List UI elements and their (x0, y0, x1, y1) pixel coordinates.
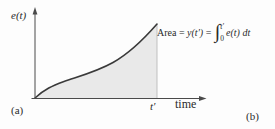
x-axis-arrow (199, 96, 207, 101)
integrator-area-figure: e(t) t′ time (a) (b) Area = y(t′) = ∫ t′… (0, 0, 275, 129)
panel-label-b: (b) (246, 111, 259, 122)
panel-label-a: (a) (11, 105, 23, 116)
x-axis-label: time (175, 98, 196, 110)
integral-limits: t′ 0 (220, 22, 224, 43)
shaded-area (35, 24, 157, 98)
integral-upper-limit: t′ (220, 22, 224, 31)
graph-canvas (0, 0, 275, 129)
formula-prefix: Area = (157, 27, 187, 38)
formula-y-term: y(t′) (187, 27, 203, 38)
t-prime-label: t′ (150, 101, 155, 112)
area-formula: Area = y(t′) = ∫ t′ 0 e(t) dt (157, 21, 250, 43)
formula-equals: = (203, 27, 214, 38)
y-axis-arrow (33, 7, 38, 15)
integral-lower-limit: 0 (220, 34, 224, 43)
formula-integrand: e(t) dt (226, 27, 250, 38)
y-axis-label: e(t) (11, 10, 26, 21)
